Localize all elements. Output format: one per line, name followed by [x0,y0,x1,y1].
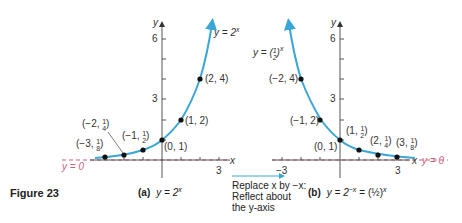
x-axis-label: x [229,155,236,166]
point-label-neg2-quarter: (−2, 14) [82,118,109,132]
y-tick-6: 6 [152,33,158,44]
y-ticks [340,39,344,140]
curve-label-b: y = (12)x [252,45,284,61]
y-tick-3: 3 [152,93,158,104]
y-axis-label: y [330,17,337,28]
point-label-1-half: (1, 12) [346,125,368,139]
graph-a: 6 3 3 y x y = 0 y = 2x (2, 4) (1, 2) (0,… [61,17,240,178]
point-label-1-2: (1, 2) [185,115,208,126]
point-label-0-1: (0, 1) [314,141,337,152]
point-label-2-4: (2, 4) [205,73,228,84]
point-label-0-1: (0, 1) [164,141,187,152]
asymptote-label: y = 0 [61,161,84,172]
y-tick-3: 3 [330,93,336,104]
x-tick-neg3: −3 [276,165,288,176]
x-tick-3: 3 [216,165,222,176]
transform-note: Replace x by −x: Reflect about the y-axi… [232,180,309,213]
x-axis-label: x [411,155,418,166]
point-label-2-quarter: (2, 14) [370,135,392,149]
x-tick-3: 3 [395,165,401,176]
graph-b: 6 3 −3 3 y x y = 0 y = (12)x (−2, 4) (−1… [252,17,448,178]
figure-canvas: 6 3 3 y x y = 0 y = 2x (2, 4) (1, 2) (0,… [0,0,462,223]
point-label-3-eighth: (3, 18) [396,137,418,151]
point-label-neg3-eighth: (−3, 18) [76,138,103,152]
y-tick-6: 6 [330,33,336,44]
caption-a: (a)y = 2x [138,186,182,198]
curve-label-a: y = 2x [213,26,240,38]
point-label-neg1-2: (−1, 2) [290,115,319,126]
point-label-neg2-4: (−2, 4) [269,73,298,84]
figure-label: Figure 23 [10,187,59,199]
asymptote-label: y = 0 [421,155,444,166]
point-label-neg1-half: (−1, 12) [122,130,149,144]
y-ticks [162,39,166,140]
y-axis-label: y [152,17,159,28]
leader-line [108,132,123,153]
caption-b: (b)y = 2−x= (½)x [308,186,387,198]
